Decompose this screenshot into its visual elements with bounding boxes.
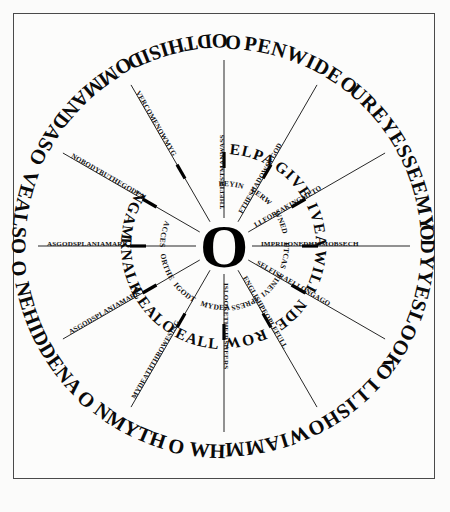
inner-ring-tick [177, 165, 185, 179]
inner-ring-word-2: GIVE [272, 157, 316, 202]
hub-letter-o: O [200, 212, 248, 280]
inner-ring-word-4: WILL [300, 249, 330, 301]
wheel-svg: BEYINGWOMANSWVERWHELMEDMANISWNEDEVILARMS… [13, 13, 435, 479]
spoke-text-1: THEFIRSTMANWASS [217, 135, 225, 210]
spoke-text-4: IMPRISONEDHISMOBSECH [261, 239, 359, 247]
spoke-text-7: ISLOOKETHEIRSHEERS [223, 283, 231, 369]
spoke-text-10: ASGODSPLANIAMARK [47, 239, 129, 247]
mid-arc-text-10: ACCESSTANNIANTHUS [10, 8, 172, 248]
spoke-text-12: VERCOMENOWMYG [134, 89, 178, 158]
text-wheel: BEYINGWOMANSWVERWHELMEDMANISWNEDEVILARMS… [13, 13, 435, 479]
outer-ring-segment-9: OMMANDASG [5, 0, 123, 155]
figure-page: BEYINGWOMANSWVERWHELMEDMANISWNEDEVILARMS… [0, 0, 450, 512]
outer-ring-segment-10: ODTHISID [124, 30, 228, 74]
outer-ring-capital-6: O [166, 434, 187, 459]
outer-ring-segment-8: OVEALSOC [5, 0, 43, 254]
outer-ring-capital-8: O [7, 259, 31, 278]
